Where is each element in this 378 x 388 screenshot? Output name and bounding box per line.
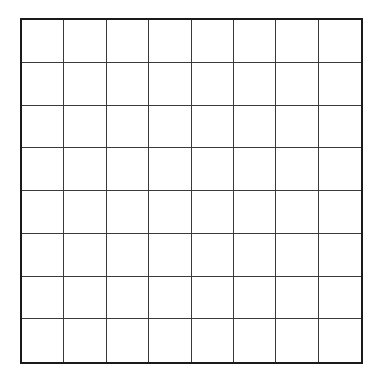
board-cell-r5-c7[interactable]: [319, 234, 361, 277]
board-cell-r2-c1[interactable]: [64, 106, 106, 149]
board-cell-r1-c3[interactable]: [149, 63, 191, 106]
board-cell-r0-c0[interactable]: [22, 20, 64, 63]
board-cell-r7-c5[interactable]: [234, 319, 276, 362]
board-cell-r1-c2[interactable]: [107, 63, 149, 106]
board-cell-r6-c7[interactable]: [319, 277, 361, 320]
board-cell-r5-c6[interactable]: [276, 234, 318, 277]
board-cell-r3-c5[interactable]: [234, 148, 276, 191]
board-cell-r7-c2[interactable]: [107, 319, 149, 362]
board-cell-r6-c5[interactable]: [234, 277, 276, 320]
board-cell-r3-c1[interactable]: [64, 148, 106, 191]
board-cell-r0-c3[interactable]: [149, 20, 191, 63]
board-cell-r7-c4[interactable]: [192, 319, 234, 362]
board-cell-r3-c6[interactable]: [276, 148, 318, 191]
board-cell-r7-c3[interactable]: [149, 319, 191, 362]
board-container: [0, 0, 378, 388]
board-cell-r1-c4[interactable]: [192, 63, 234, 106]
board-cell-r3-c4[interactable]: [192, 148, 234, 191]
board-cell-r4-c3[interactable]: [149, 191, 191, 234]
board-cell-r5-c2[interactable]: [107, 234, 149, 277]
board-cell-r4-c5[interactable]: [234, 191, 276, 234]
board-cell-r5-c3[interactable]: [149, 234, 191, 277]
board-cell-r7-c7[interactable]: [319, 319, 361, 362]
board-cell-r7-c0[interactable]: [22, 319, 64, 362]
board-cell-r5-c1[interactable]: [64, 234, 106, 277]
board-cell-r2-c2[interactable]: [107, 106, 149, 149]
board-cell-r6-c3[interactable]: [149, 277, 191, 320]
board-cell-r0-c7[interactable]: [319, 20, 361, 63]
board-cell-r4-c1[interactable]: [64, 191, 106, 234]
board-cell-r4-c4[interactable]: [192, 191, 234, 234]
board-cell-r0-c1[interactable]: [64, 20, 106, 63]
board-cell-r5-c4[interactable]: [192, 234, 234, 277]
board-cell-r6-c2[interactable]: [107, 277, 149, 320]
board-cell-r2-c5[interactable]: [234, 106, 276, 149]
board-cell-r0-c2[interactable]: [107, 20, 149, 63]
board-cell-r2-c6[interactable]: [276, 106, 318, 149]
board-cell-r4-c0[interactable]: [22, 191, 64, 234]
board-cell-r6-c0[interactable]: [22, 277, 64, 320]
board-cell-r7-c1[interactable]: [64, 319, 106, 362]
board-cell-r1-c0[interactable]: [22, 63, 64, 106]
board-cell-r1-c1[interactable]: [64, 63, 106, 106]
board-cell-r4-c6[interactable]: [276, 191, 318, 234]
board-cell-r6-c6[interactable]: [276, 277, 318, 320]
board-cell-r0-c4[interactable]: [192, 20, 234, 63]
board-cell-r2-c7[interactable]: [319, 106, 361, 149]
board-cell-r1-c7[interactable]: [319, 63, 361, 106]
board-cell-r0-c5[interactable]: [234, 20, 276, 63]
board-cell-r3-c7[interactable]: [319, 148, 361, 191]
board-cell-r4-c2[interactable]: [107, 191, 149, 234]
board-cell-r5-c0[interactable]: [22, 234, 64, 277]
board-cell-r1-c6[interactable]: [276, 63, 318, 106]
game-board-grid[interactable]: [20, 18, 363, 364]
board-cell-r6-c4[interactable]: [192, 277, 234, 320]
board-cell-r6-c1[interactable]: [64, 277, 106, 320]
board-cell-r0-c6[interactable]: [276, 20, 318, 63]
board-cell-r3-c2[interactable]: [107, 148, 149, 191]
board-cell-r7-c6[interactable]: [276, 319, 318, 362]
board-cell-r2-c3[interactable]: [149, 106, 191, 149]
board-cell-r2-c4[interactable]: [192, 106, 234, 149]
board-cell-r3-c0[interactable]: [22, 148, 64, 191]
board-cell-r2-c0[interactable]: [22, 106, 64, 149]
board-cell-r1-c5[interactable]: [234, 63, 276, 106]
board-cell-r5-c5[interactable]: [234, 234, 276, 277]
board-cell-r4-c7[interactable]: [319, 191, 361, 234]
board-cell-r3-c3[interactable]: [149, 148, 191, 191]
